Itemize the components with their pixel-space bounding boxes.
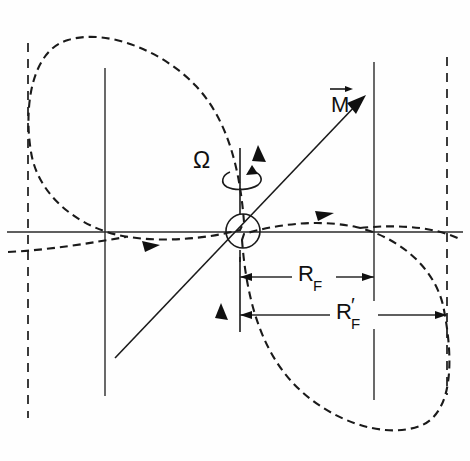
angular-velocity-label: Ω — [193, 147, 210, 173]
physics-diagram-svg: M Ω R F R ′ F — [0, 0, 470, 461]
rotation-spin-arrowhead — [246, 165, 258, 175]
lower-lobe-flow-arrowhead — [215, 303, 228, 320]
dimension-rf-arrow-right — [362, 273, 374, 281]
upper-left-orbit-lobe — [28, 37, 244, 240]
rf-prime-label-base: R — [336, 299, 352, 324]
magnetization-axis-line — [115, 103, 358, 358]
lower-left-flow-arrowhead — [142, 241, 160, 252]
figure-root: M Ω R F R ′ F — [0, 0, 470, 461]
rf-label-subscript: F — [313, 277, 322, 294]
upper-lobe-flow-arrowhead — [252, 145, 266, 162]
upper-right-flow-arrowhead — [315, 211, 334, 221]
rf-prime-label-mark: ′ — [351, 294, 355, 316]
rf-label-base: R — [298, 261, 314, 286]
magnetization-label: M — [331, 92, 349, 117]
dimension-rf-prime-arrow-left — [240, 311, 252, 319]
orbit-left-tail — [8, 237, 126, 252]
rf-prime-label-subscript: F — [351, 315, 360, 332]
